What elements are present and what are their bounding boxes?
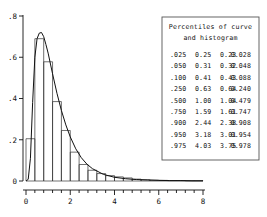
percentile-table-row: .2500.630.640.240 <box>170 85 251 93</box>
histogram-bar <box>70 152 79 181</box>
x-axis-tick-label: 8 <box>201 197 206 206</box>
percentile-table-cell: .100 <box>170 74 186 82</box>
percentile-table-row: .9002.442.380.908 <box>170 119 251 127</box>
y-axis-tick-label: .8 <box>8 12 18 21</box>
y-axis-tick-label: .4 <box>8 94 18 103</box>
y-axis-tick-label: 0 <box>12 177 17 186</box>
percentile-table-cell: .900 <box>170 119 186 127</box>
percentile-table-cell: .750 <box>170 108 186 116</box>
percentile-table-cell: 0.240 <box>231 85 251 93</box>
percentile-table-row: .5001.001.040.479 <box>170 97 251 105</box>
histogram-bar <box>53 102 62 181</box>
histogram-bar <box>44 62 53 181</box>
y-axis-tick-label: .2 <box>8 136 17 145</box>
histogram-bar <box>79 165 88 182</box>
percentile-table-cell: 0.088 <box>231 74 251 82</box>
percentile-table-cell: .050 <box>170 62 186 70</box>
percentile-table-cell: 0.63 <box>195 85 211 93</box>
percentile-table-cell: 0.048 <box>231 62 251 70</box>
percentile-table-cell: .975 <box>170 142 186 150</box>
histogram-bar <box>61 130 70 181</box>
histogram-bar <box>35 39 44 181</box>
histogram-with-density-curve: .8.6.4.2002468Percentiles of curveand hi… <box>0 0 267 217</box>
percentile-table-cell: 0.31 <box>195 62 211 70</box>
percentile-table-title-line1: Percentiles of curve <box>169 23 252 31</box>
percentile-table-cell: 0.028 <box>231 51 251 59</box>
percentile-table-row: .0500.310.320.048 <box>170 62 251 70</box>
percentile-table-cell: 1.59 <box>195 108 211 116</box>
percentile-table-cell: 1.00 <box>195 97 211 105</box>
percentile-table-cell: 0.747 <box>231 108 251 116</box>
y-axis-tick-label: .6 <box>8 53 18 62</box>
percentile-table-cell: 0.479 <box>231 97 251 105</box>
percentile-table-cell: 0.41 <box>195 74 211 82</box>
x-axis-tick-label: 0 <box>24 197 29 206</box>
percentile-table-cell: 0.978 <box>231 142 251 150</box>
percentile-table-row: .1000.410.430.088 <box>170 74 251 82</box>
chart-figure: .8.6.4.2002468Percentiles of curveand hi… <box>0 0 267 217</box>
percentile-table-cell: .250 <box>170 85 186 93</box>
x-axis-tick-label: 4 <box>112 197 117 206</box>
percentile-table-cell: 2.44 <box>195 119 211 127</box>
percentile-table-cell: 0.954 <box>231 131 251 139</box>
percentile-table-cell: 0.25 <box>195 51 211 59</box>
percentile-table-row: .9503.183.010.954 <box>170 131 251 139</box>
percentile-table-cell: .500 <box>170 97 186 105</box>
x-axis-tick-label: 2 <box>68 197 73 206</box>
percentile-table-cell: 0.908 <box>231 119 251 127</box>
percentile-table-cell: .025 <box>170 51 186 59</box>
percentile-table-title-line2: and histogram <box>183 34 237 42</box>
percentile-table-row: .0250.250.230.028 <box>170 51 251 59</box>
histogram-bar <box>88 170 97 181</box>
percentile-table-row: .7501.591.610.747 <box>170 108 251 116</box>
percentile-table-cell: 4.03 <box>195 142 211 150</box>
percentile-table-row: .9754.033.750.978 <box>170 142 251 150</box>
percentile-table-cell: 3.18 <box>195 131 211 139</box>
percentile-table-cell: .950 <box>170 131 186 139</box>
x-axis-tick-label: 6 <box>156 197 161 206</box>
